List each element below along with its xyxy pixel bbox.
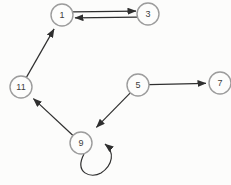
node-1: 1 xyxy=(51,4,73,26)
node-label-7: 7 xyxy=(217,78,222,88)
node-11: 11 xyxy=(10,76,32,98)
edge-5-to-9 xyxy=(96,93,130,128)
node-label-11: 11 xyxy=(16,82,25,92)
edge-5-to-7 xyxy=(149,83,206,84)
node-label-5: 5 xyxy=(135,80,140,90)
edge-11-to-1 xyxy=(26,29,54,78)
graph-diagram: 1311579 xyxy=(0,0,231,185)
node-label-3: 3 xyxy=(145,9,150,19)
node-9: 9 xyxy=(70,132,92,154)
node-label-1: 1 xyxy=(59,10,64,20)
nodes-layer: 1311579 xyxy=(10,3,231,154)
graph-canvas: 1311579 xyxy=(0,0,231,185)
edge-9-to-11 xyxy=(33,99,73,136)
node-3: 3 xyxy=(137,3,159,25)
node-label-9: 9 xyxy=(78,138,83,148)
edge-1-to-3 xyxy=(73,11,136,12)
edges-layer xyxy=(26,11,206,175)
edge-3-to-1 xyxy=(75,17,137,18)
node-5: 5 xyxy=(127,74,149,96)
node-7: 7 xyxy=(209,72,231,94)
